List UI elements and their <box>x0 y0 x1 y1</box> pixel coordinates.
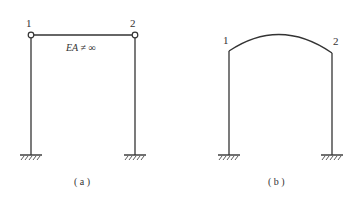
hinge-icon <box>28 32 34 38</box>
fixed-support-icon <box>20 155 42 160</box>
caption-b: ( b ) <box>268 176 285 187</box>
node-label-b-2: 2 <box>333 35 339 47</box>
node-label-b-1: 1 <box>223 34 229 46</box>
frame-b <box>218 34 343 160</box>
arch-b <box>229 34 332 53</box>
node-label-a-1: 1 <box>26 17 32 29</box>
beam-stiffness-label: EA ≠ ∞ <box>66 42 96 53</box>
fixed-support-icon <box>218 155 240 160</box>
fixed-support-icon <box>124 155 146 160</box>
fixed-support-icon <box>321 155 343 160</box>
caption-a: ( a ) <box>74 176 90 187</box>
structural-frames-diagram: 1 2 EA ≠ ∞ ( a ) 1 2 ( b ) <box>0 0 363 198</box>
hinge-icon <box>132 32 138 38</box>
node-label-a-2: 2 <box>130 17 136 29</box>
